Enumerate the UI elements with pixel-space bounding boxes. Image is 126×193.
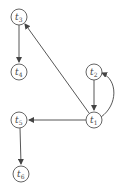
edge-t1-t2-curved xyxy=(101,73,114,117)
node-t6[interactable]: t6 xyxy=(13,166,29,182)
node-t1[interactable]: t1 xyxy=(86,112,102,128)
edge-t1-t3 xyxy=(25,24,89,113)
edge-t5-t6 xyxy=(20,128,21,164)
node-t3[interactable]: t3 xyxy=(11,9,27,25)
node-t5[interactable]: t5 xyxy=(11,112,27,128)
node-t4[interactable]: t4 xyxy=(11,64,27,80)
graph-canvas: t1 t2 t3 t4 t5 t6 xyxy=(0,0,126,193)
node-t2[interactable]: t2 xyxy=(86,64,102,80)
